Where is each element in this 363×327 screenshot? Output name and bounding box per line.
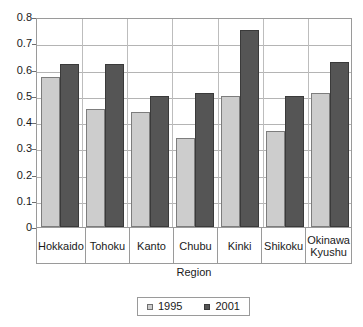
bar-chart: 0.80.70.60.50.40.30.20.10 HokkaidoTohoku… xyxy=(0,0,363,327)
x-axis-category-labels: HokkaidoTohokuKantoChubuKinkiShikokuOkin… xyxy=(36,228,352,264)
y-axis-tick-label: 0.6 xyxy=(2,65,32,76)
y-axis-tick-label: 0 xyxy=(2,222,32,233)
x-axis-category-label: Kanto xyxy=(130,228,174,263)
y-axis: 0.80.70.60.50.40.30.20.10 xyxy=(0,0,32,327)
bar-group xyxy=(127,19,172,227)
x-axis-category-label: Chubu xyxy=(174,228,218,263)
y-axis-tick-label: 0.4 xyxy=(2,117,32,128)
bar-2001 xyxy=(240,30,259,227)
bar-group xyxy=(172,19,217,227)
y-axis-tick-label: 0.3 xyxy=(2,143,32,154)
bar-2001 xyxy=(330,62,349,227)
bar-1995 xyxy=(131,112,150,227)
bar-1995 xyxy=(176,138,195,227)
legend-swatch-2001 xyxy=(204,304,210,310)
x-axis-category-label: Kinki xyxy=(218,228,262,263)
bar-2001 xyxy=(195,93,214,227)
x-axis-title: Region xyxy=(36,266,352,278)
bar-1995 xyxy=(86,109,105,227)
legend-entry: 2001 xyxy=(204,301,239,312)
legend-label: 1995 xyxy=(158,301,182,312)
bar-group xyxy=(218,19,263,227)
category-separator xyxy=(127,19,128,227)
y-axis-tick-label: 0.8 xyxy=(2,12,32,23)
legend-entry: 1995 xyxy=(147,301,182,312)
bar-2001 xyxy=(150,96,169,227)
legend-label: 2001 xyxy=(215,301,239,312)
y-axis-tick-label: 0.2 xyxy=(2,170,32,181)
x-axis-category-label: Shikoku xyxy=(262,228,306,263)
bar-group xyxy=(37,19,82,227)
bar-1995 xyxy=(221,96,240,227)
category-separator xyxy=(308,19,309,227)
plot-area xyxy=(36,18,352,228)
x-axis-category-label: Hokkaido xyxy=(37,228,86,263)
bar-1995 xyxy=(41,77,60,227)
category-separator xyxy=(172,19,173,227)
bar-2001 xyxy=(105,64,124,227)
x-axis-category-label: Tohoku xyxy=(86,228,130,263)
bar-1995 xyxy=(266,131,285,227)
category-separator xyxy=(218,19,219,227)
category-separator xyxy=(263,19,264,227)
y-axis-tick-label: 0.5 xyxy=(2,91,32,102)
chart-legend: 19952001 xyxy=(137,297,250,316)
bar-group xyxy=(263,19,308,227)
bar-group xyxy=(82,19,127,227)
bar-2001 xyxy=(285,96,304,227)
category-separator xyxy=(82,19,83,227)
bar-group xyxy=(308,19,353,227)
legend-swatch-1995 xyxy=(147,304,153,310)
bar-2001 xyxy=(60,64,79,227)
bars-layer xyxy=(37,19,351,227)
bar-1995 xyxy=(311,93,330,227)
x-axis-category-label: Okinawa Kyushu xyxy=(306,228,351,263)
y-axis-tick-label: 0.1 xyxy=(2,196,32,207)
y-axis-tick-label: 0.7 xyxy=(2,38,32,49)
